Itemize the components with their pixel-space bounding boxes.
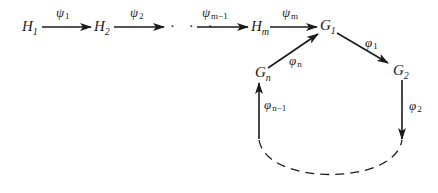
node-hm: Hm [250, 18, 269, 37]
arrow-phi1 [337, 33, 388, 63]
label-psi1: ψ1 [56, 5, 70, 21]
node-g2: G2 [393, 62, 409, 81]
label-phi1: φ1 [365, 35, 378, 51]
label-phi2: φ2 [409, 98, 422, 114]
label-psi-m-minus-1: ψm−1 [202, 5, 228, 21]
dashed-arc [259, 140, 402, 175]
label-psi-m: ψm [282, 5, 298, 21]
node-h2: H2 [93, 18, 110, 37]
node-g1: G1 [320, 17, 336, 36]
label-psi2: ψ2 [130, 5, 144, 21]
commutative-diagram: H1 H2 · · · Hm G1 G2 Gn ψ1 ψ2 ψm−1 ψm φ1… [0, 0, 438, 193]
label-phi-n: φn [289, 53, 302, 69]
node-h1: H1 [21, 18, 38, 37]
label-phi-n-minus-1: φn−1 [264, 97, 286, 113]
